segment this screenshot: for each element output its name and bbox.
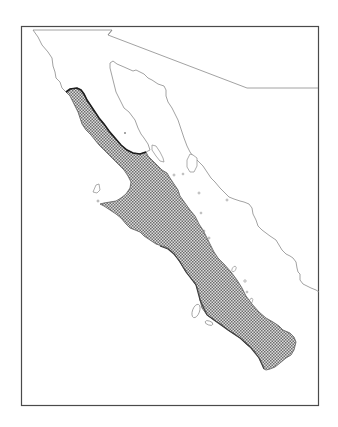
coast-detail-dot — [124, 132, 126, 134]
island-tiburon — [187, 154, 197, 172]
distribution-map — [0, 0, 338, 427]
